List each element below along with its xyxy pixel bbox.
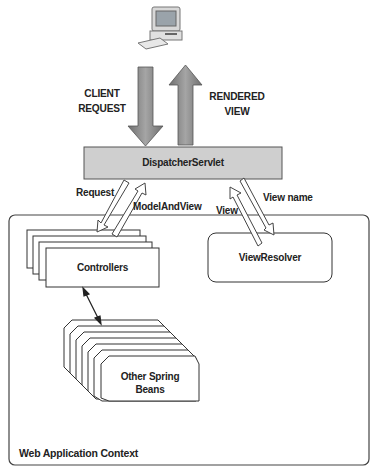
web-application-context-label: Web Application Context xyxy=(19,447,138,459)
client-request-label: CLIENT REQUEST xyxy=(76,86,129,116)
other-beans-line1: Other Spring xyxy=(101,370,199,383)
dispatcher-servlet-label: DispatcherServlet xyxy=(84,157,282,168)
model-and-view-label: ModelAndView xyxy=(133,201,202,212)
view-name-arrow xyxy=(240,178,274,235)
client-request-arrow xyxy=(128,67,163,146)
controllers-label: Controllers xyxy=(46,262,159,273)
view-resolver-label: ViewResolver xyxy=(208,252,332,263)
rendered-view-label: RENDERED VIEW xyxy=(206,89,268,119)
controllers-beans-link xyxy=(83,288,101,324)
client-request-line2: REQUEST xyxy=(76,101,129,116)
other-spring-beans-label: Other Spring Beans xyxy=(101,370,199,396)
desktop-computer-icon xyxy=(138,7,182,49)
request-label: Request xyxy=(76,187,114,198)
other-beans-line2: Beans xyxy=(101,383,199,396)
controllers-stack xyxy=(27,230,159,287)
rendered-view-line2: VIEW xyxy=(206,104,268,119)
diagram-canvas xyxy=(0,0,377,473)
rendered-view-line1: RENDERED xyxy=(206,89,268,104)
client-request-line1: CLIENT xyxy=(76,86,129,101)
rendered-view-arrow xyxy=(169,65,202,145)
view-name-label: View name xyxy=(263,192,313,203)
view-label: View xyxy=(216,205,238,216)
